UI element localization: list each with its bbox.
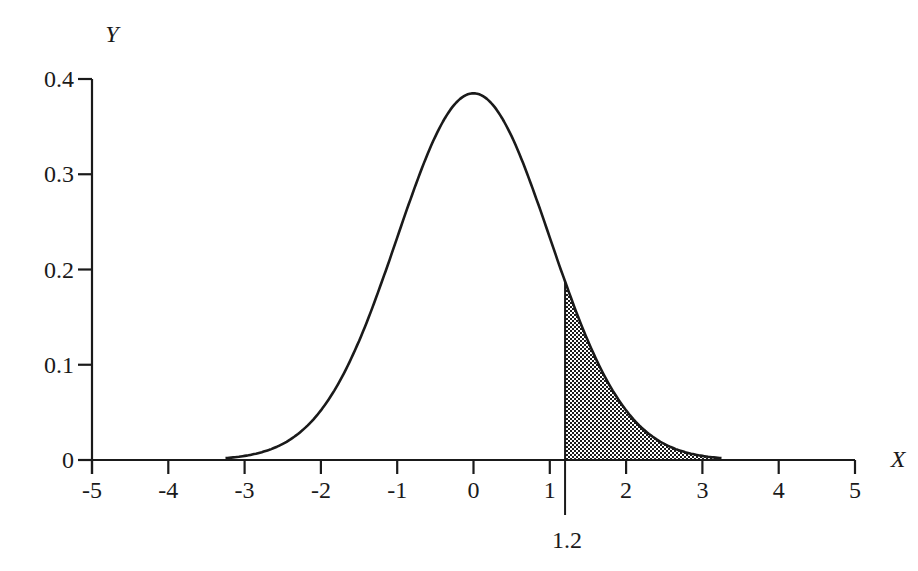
x-tick-label: 2 [620, 477, 632, 503]
cut-value-label: 1.2 [552, 527, 582, 553]
x-tick-label: -5 [82, 477, 102, 503]
y-tick-label: 0 [62, 447, 74, 473]
y-tick-label: 0.2 [44, 257, 74, 283]
x-tick-label: -2 [311, 477, 331, 503]
y-tick-label: 0.4 [44, 66, 74, 92]
x-tick-label: -4 [158, 477, 178, 503]
x-tick-label: 5 [849, 477, 861, 503]
x-tick-label: -1 [387, 477, 407, 503]
y-axis-title: Y [105, 21, 121, 47]
x-axis-ticks: -5-4-3-2-1012345 [82, 460, 861, 503]
axes [78, 79, 855, 474]
shaded-tail-area [565, 282, 721, 461]
x-tick-label: -3 [235, 477, 255, 503]
x-tick-label: 4 [773, 477, 785, 503]
x-tick-label: 3 [696, 477, 708, 503]
x-tick-label: 0 [468, 477, 480, 503]
y-axis-ticks: 00.10.20.30.4 [44, 66, 92, 473]
x-tick-label: 1 [544, 477, 556, 503]
normal-distribution-chart: -5-4-3-2-1012345 00.10.20.30.4 Y X 1.2 [0, 0, 918, 571]
y-tick-label: 0.3 [44, 161, 74, 187]
x-axis-title: X [890, 446, 907, 472]
y-tick-label: 0.1 [44, 352, 74, 378]
density-curve [226, 93, 722, 458]
